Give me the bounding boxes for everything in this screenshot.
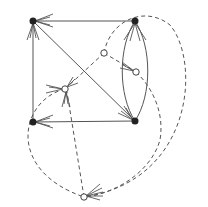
edge-b-d [84, 72, 161, 197]
edge-c-d [28, 89, 84, 197]
dashed-edges [28, 16, 186, 197]
arrowhead-icon [46, 85, 63, 93]
solid-edges [33, 21, 148, 122]
graph-diagram [0, 0, 208, 207]
edge-tl-br [33, 21, 135, 121]
node-a [101, 50, 107, 56]
edge-a-d [84, 16, 186, 197]
node-d [81, 194, 87, 200]
node-tl [30, 18, 37, 25]
node-tr [132, 18, 139, 25]
edge-d-c [67, 92, 84, 197]
node-br [132, 118, 139, 125]
node-b [133, 69, 139, 75]
arrowhead-icon [86, 184, 103, 200]
node-bl [30, 119, 37, 126]
node-c [62, 86, 68, 92]
edge-br-bl [33, 121, 135, 122]
